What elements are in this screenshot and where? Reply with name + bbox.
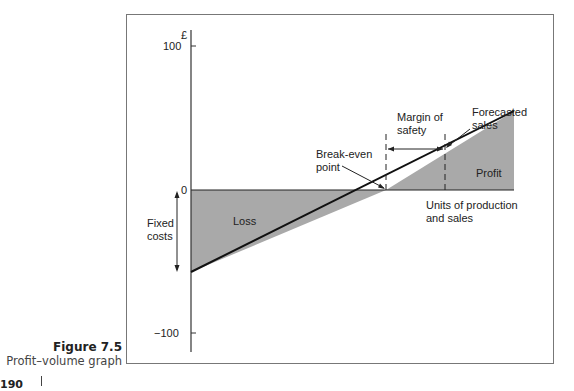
fixed-costs-label-2: costs [147,230,173,243]
break-even-pointer [342,166,384,188]
x-axis-label-2: and sales [426,212,473,225]
margin-of-safety-label-1: Margin of [397,111,443,124]
break-even-label-1: Break-even [316,148,372,161]
loss-area [191,190,386,272]
fixed-costs-label-1: Fixed [147,217,174,230]
loss-label: Loss [233,215,256,228]
y-tick-label-0: 0 [181,184,187,197]
figure-caption: Profit–volume graph [6,354,122,368]
forecasted-sales-label-1: Forecasted [472,106,527,119]
profit-label: Profit [476,167,502,180]
page-number: 190 [0,378,23,391]
page-divider [41,376,42,386]
x-axis-label-1: Units of production [426,199,518,212]
y-unit-label: £ [181,29,187,42]
y-tick-label-100: 100 [163,40,181,53]
margin-of-safety-label-2: safety [397,124,426,137]
figure-number: Figure 7.5 [53,340,122,354]
break-even-label-2: point [316,161,340,174]
forecasted-sales-label-2: sales [472,119,498,132]
y-tick-label-neg100: −100 [154,327,179,340]
